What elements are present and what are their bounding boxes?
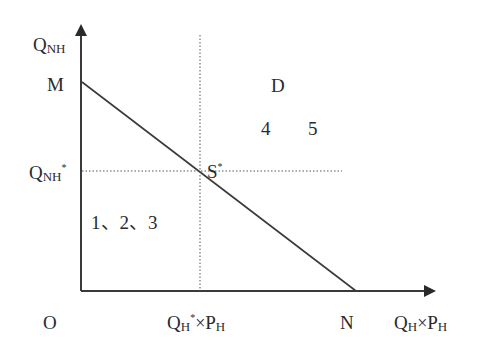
region-number-5: 5 — [308, 119, 318, 138]
budget-line-mn — [82, 82, 356, 291]
diagram-canvas — [0, 0, 495, 350]
region-lower-numbers: 1、2、3 — [91, 213, 158, 232]
x-axis-arrow-icon — [424, 285, 436, 297]
region-number-4: 4 — [261, 119, 271, 138]
y-star-label: QNH* — [29, 163, 67, 182]
x-star-label: QH*×PH — [167, 313, 225, 332]
point-m-label: M — [47, 75, 64, 94]
point-s-label: S* — [207, 162, 223, 181]
y-axis-label: QNH — [33, 35, 66, 54]
y-axis-arrow-icon — [75, 24, 87, 36]
x-axis-label: QH×PH — [394, 313, 447, 332]
region-d-label: D — [271, 76, 285, 95]
point-n-label: N — [340, 313, 354, 332]
origin-label: O — [43, 313, 57, 332]
